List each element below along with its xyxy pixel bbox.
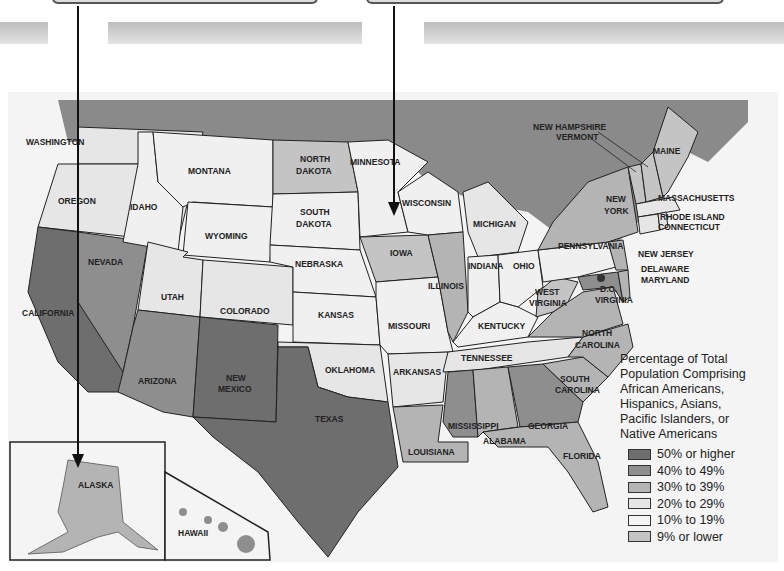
label-new-mexico-2: MEXICO <box>218 384 252 394</box>
label-colorado: COLORADO <box>220 306 270 316</box>
legend-item: 30% to 39% <box>628 479 780 496</box>
label-new-mexico-1: NEW <box>226 373 247 383</box>
label-alabama: ALABAMA <box>483 436 526 446</box>
header-band-3 <box>424 22 784 44</box>
swatch-10-19 <box>628 515 651 526</box>
callout-box-right <box>366 0 724 4</box>
label-delaware: DELAWARE <box>641 264 690 274</box>
legend-item: 9% or lower <box>628 529 780 546</box>
legend-label: 20% to 29% <box>657 497 724 511</box>
label-wyoming: WYOMING <box>205 231 248 241</box>
label-kansas: KANSAS <box>318 310 354 320</box>
label-mississippi: MISSISSIPPI <box>448 421 499 431</box>
label-maryland: MARYLAND <box>641 275 689 285</box>
legend-item: 10% to 19% <box>628 512 780 529</box>
label-south-dakota-2: DAKOTA <box>296 219 332 229</box>
label-california: CALIFORNIA <box>22 308 74 318</box>
legend-title-line: Pacific Islanders, or <box>620 412 780 427</box>
legend-title: Percentage of Total Population Comprisin… <box>620 352 780 442</box>
legend-title-line: Percentage of Total <box>620 352 780 367</box>
label-connecticut: CONNECTICUT <box>658 222 721 232</box>
swatch-40-49 <box>628 465 651 476</box>
label-pennsylvania: PENNSYLVANIA <box>558 241 623 251</box>
legend-title-line: Native Americans <box>620 427 780 442</box>
swatch-9-lower <box>628 531 651 542</box>
state-arkansas[interactable] <box>388 352 448 407</box>
label-idaho: IDAHO <box>130 202 158 212</box>
swatch-50-plus <box>628 449 651 460</box>
label-south-dakota-1: SOUTH <box>300 207 330 217</box>
legend-item: 20% to 29% <box>628 496 780 513</box>
swatch-20-29 <box>628 498 651 509</box>
label-north-dakota-2: DAKOTA <box>296 166 332 176</box>
label-virginia: VIRGINIA <box>595 295 633 305</box>
label-louisiana: LOUISIANA <box>408 447 455 457</box>
legend: Percentage of Total Population Comprisin… <box>620 352 780 545</box>
label-utah: UTAH <box>161 292 184 302</box>
legend-label: 50% or higher <box>657 447 735 461</box>
label-new-jersey: NEW JERSEY <box>638 249 694 259</box>
label-vermont: VERMONT <box>556 132 599 142</box>
pointer-arrow-right <box>393 6 395 214</box>
label-illinois: ILLINOIS <box>428 281 464 291</box>
label-nebraska: NEBRASKA <box>295 259 343 269</box>
label-michigan: MICHIGAN <box>473 219 516 229</box>
label-rhode-island: RHODE ISLAND <box>660 212 725 222</box>
label-hawaii: HAWAII <box>178 528 208 538</box>
swatch-30-39 <box>628 482 651 493</box>
pointer-arrow-left <box>77 6 79 466</box>
label-south-carolina-2: CAROLINA <box>555 385 600 395</box>
header-band-1 <box>0 22 48 44</box>
legend-title-line: African Americans, <box>620 382 780 397</box>
label-massachusetts: MASSACHUSETTS <box>658 193 735 203</box>
label-montana: MONTANA <box>188 166 231 176</box>
state-connecticut[interactable] <box>638 214 660 234</box>
legend-item: 40% to 49% <box>628 463 780 480</box>
label-indiana: INDIANA <box>468 261 503 271</box>
label-west-virginia-1: WEST <box>535 287 560 297</box>
callout-box-left <box>52 0 318 4</box>
label-arkansas: ARKANSAS <box>393 367 442 377</box>
header-band-2 <box>108 22 362 44</box>
label-texas: TEXAS <box>315 414 344 424</box>
label-wisconsin: WISCONSIN <box>402 198 451 208</box>
legend-label: 40% to 49% <box>657 464 724 478</box>
legend-label: 30% to 39% <box>657 480 724 494</box>
legend-item: 50% or higher <box>628 446 780 463</box>
label-georgia: GEORGIA <box>528 421 568 431</box>
label-iowa: IOWA <box>390 248 413 258</box>
label-florida: FLORIDA <box>563 451 601 461</box>
label-tennessee: TENNESSEE <box>461 353 513 363</box>
legend-title-line: Population Comprising <box>620 367 780 382</box>
label-west-virginia-2: VIRGINIA <box>529 298 567 308</box>
label-north-carolina-2: CAROLINA <box>575 340 620 350</box>
label-ohio: OHIO <box>513 261 535 271</box>
label-arizona: ARIZONA <box>138 376 177 386</box>
label-north-carolina-1: NORTH <box>582 328 612 338</box>
label-missouri: MISSOURI <box>388 321 430 331</box>
label-washington: WASHINGTON <box>26 137 84 147</box>
label-new-hampshire: NEW HAMPSHIRE <box>533 122 607 132</box>
label-alaska: ALASKA <box>78 480 113 490</box>
dc-marker <box>597 274 605 282</box>
label-new-york-1: NEW <box>606 194 627 204</box>
label-maine: MAINE <box>653 146 681 156</box>
legend-label: 9% or lower <box>657 530 723 544</box>
label-nevada: NEVADA <box>88 257 123 267</box>
label-new-york-2: YORK <box>604 206 629 216</box>
label-oklahoma: OKLAHOMA <box>325 365 375 375</box>
label-kentucky: KENTUCKY <box>478 321 526 331</box>
state-new-mexico[interactable] <box>193 317 278 422</box>
label-south-carolina-1: SOUTH <box>560 374 590 384</box>
legend-title-line: Hispanics, Asians, <box>620 397 780 412</box>
label-north-dakota-1: NORTH <box>300 154 330 164</box>
legend-label: 10% to 19% <box>657 513 724 527</box>
label-dc: D.C. <box>600 284 617 294</box>
